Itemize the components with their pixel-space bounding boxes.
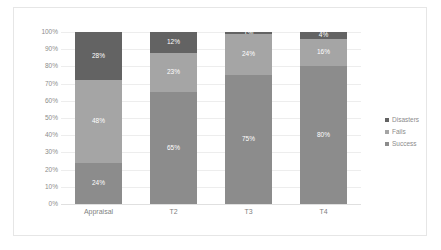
chart-container: 100%90%80%70%60%50%40%30%20%10%0% 28%48%… (13, 7, 427, 236)
legend-item-label: Fails (392, 129, 406, 136)
bar-segment-value-label: 28% (92, 53, 105, 60)
bar-segment-value-label: 24% (92, 180, 105, 187)
y-axis-tick-label: 10% (22, 184, 58, 191)
bar-stack: 28%48%24% (75, 32, 122, 204)
bar-segment-fails[interactable]: 16% (300, 39, 347, 67)
y-axis-tick-label: 0% (22, 201, 58, 208)
bar-segment-success[interactable]: 75% (225, 75, 272, 204)
x-axis: AppraisalT2T3T4 (61, 208, 361, 222)
legend-item-label: Disasters (392, 117, 419, 124)
bar-segment-disasters[interactable]: 4% (300, 32, 347, 39)
x-axis-tick-label: T4 (286, 208, 361, 215)
plot-area: 28%48%24%12%23%65%1%24%75%4%16%80% (61, 32, 361, 204)
bar-stack: 1%24%75% (225, 32, 272, 204)
y-axis-tick-label: 90% (22, 46, 58, 53)
gridline (61, 204, 361, 205)
y-axis: 100%90%80%70%60%50%40%30%20%10%0% (22, 32, 58, 204)
legend-swatch-icon (385, 118, 389, 122)
bar-segment-value-label: 75% (242, 136, 255, 143)
bar-segment-value-label: 48% (92, 118, 105, 125)
y-axis-tick-label: 30% (22, 149, 58, 156)
bar-group[interactable]: 1%24%75% (225, 32, 272, 204)
bar-segment-fails[interactable]: 24% (225, 34, 272, 75)
bar-segment-success[interactable]: 65% (150, 92, 197, 204)
bar-segment-value-label: 4% (319, 32, 328, 39)
x-axis-tick-label: T3 (211, 208, 286, 215)
bar-segment-value-label: 65% (167, 145, 180, 152)
y-axis-tick-label: 80% (22, 63, 58, 70)
legend-swatch-icon (385, 142, 389, 146)
bar-stack: 4%16%80% (300, 32, 347, 204)
bar-group[interactable]: 4%16%80% (300, 32, 347, 204)
bar-group[interactable]: 12%23%65% (150, 32, 197, 204)
bar-segment-success[interactable]: 80% (300, 66, 347, 204)
bar-segment-disasters[interactable]: 28% (75, 32, 122, 80)
bar-segment-value-label: 80% (317, 132, 330, 139)
y-axis-tick-label: 50% (22, 115, 58, 122)
y-axis-tick-label: 70% (22, 80, 58, 87)
bar-segment-value-label: 12% (167, 39, 180, 46)
bar-segment-fails[interactable]: 48% (75, 80, 122, 163)
y-axis-tick-label: 20% (22, 166, 58, 173)
legend-item-disasters[interactable]: Disasters (385, 116, 441, 124)
bar-segment-fails[interactable]: 23% (150, 53, 197, 93)
bar-segment-value-label: 16% (317, 49, 330, 56)
bar-stack: 12%23%65% (150, 32, 197, 204)
bar-segment-success[interactable]: 24% (75, 163, 122, 204)
legend-item-label: Success (392, 141, 417, 148)
y-axis-tick-label: 60% (22, 98, 58, 105)
x-axis-tick-label: Appraisal (61, 208, 136, 215)
legend-item-success[interactable]: Success (385, 140, 441, 148)
y-axis-tick-label: 100% (22, 29, 58, 36)
legend-item-fails[interactable]: Fails (385, 128, 441, 136)
legend-swatch-icon (385, 130, 389, 134)
bar-group[interactable]: 28%48%24% (75, 32, 122, 204)
bar-segment-value-label: 23% (167, 69, 180, 76)
x-axis-tick-label: T2 (136, 208, 211, 215)
chart-legend: DisastersFailsSuccess (385, 116, 441, 152)
bar-segment-value-label: 24% (242, 51, 255, 58)
bar-segment-disasters[interactable]: 12% (150, 32, 197, 53)
y-axis-tick-label: 40% (22, 132, 58, 139)
